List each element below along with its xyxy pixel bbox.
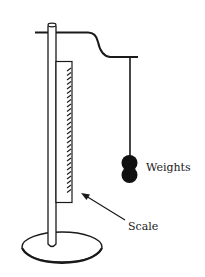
weights-label: Weights (146, 162, 191, 173)
apparatus-diagram: Weights Scale (0, 0, 205, 277)
stand-pole (48, 23, 56, 246)
apparatus-svg (0, 0, 205, 277)
scale-label: Scale (128, 221, 158, 232)
weights-icon (122, 155, 138, 183)
arrow-icon (81, 193, 125, 220)
base-plate (22, 232, 102, 263)
scale (56, 62, 72, 203)
